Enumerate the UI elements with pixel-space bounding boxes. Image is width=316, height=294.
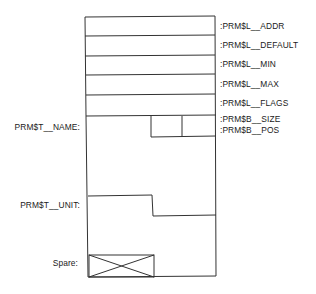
field-label-min: :PRM$L__MIN — [220, 59, 276, 69]
size-pos-cells — [151, 116, 216, 137]
unit-region-boundary — [88, 195, 216, 216]
field-label-pos: :PRM$B__POS — [220, 125, 279, 135]
row-divider-flags — [86, 115, 216, 116]
field-label-default: :PRM$L__DEFAULT — [220, 40, 298, 50]
row-divider-addr — [85, 35, 215, 36]
label-spare: Spare: — [0, 258, 78, 268]
row-divider-max — [86, 94, 215, 95]
field-label-flags: :PRM$L__FLAGS — [220, 98, 288, 108]
label-unit: PRM$T__UNIT: — [0, 200, 80, 210]
field-label-size: :PRM$B__SIZE — [220, 114, 280, 124]
field-label-addr: :PRM$L__ADDR — [220, 21, 285, 31]
field-label-max: :PRM$L__MAX — [220, 79, 279, 89]
row-divider-default — [85, 55, 215, 56]
row-divider-min — [86, 74, 215, 75]
label-name: PRM$T__NAME: — [0, 122, 80, 132]
